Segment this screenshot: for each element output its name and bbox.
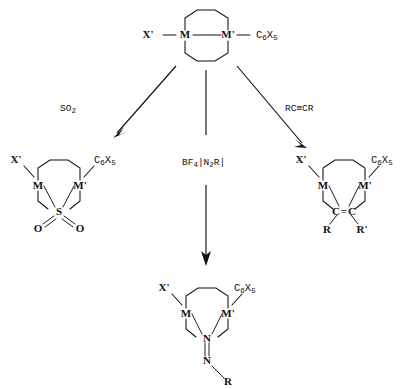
diazo-product-left-ligand-bond — [172, 294, 182, 305]
reactant-structure: X' M M' C6X5 — [143, 10, 279, 61]
reaction-scheme: X' M M' C6X5 SO2 BF4|N2R| RC≡CR — [0, 0, 411, 389]
alkyne-product-left-ligand-bond — [309, 166, 319, 177]
so2-product-right-ligand-bond — [84, 166, 94, 177]
alkyne-product-metal-1-label: M — [318, 179, 329, 191]
so2-product-metal-2-label: M' — [73, 179, 86, 191]
diazo-product-left-ligand-label: X' — [159, 281, 170, 293]
diazo-product-right-ligand-label: C6X5 — [234, 282, 256, 295]
alkyne-product-double-bond-label: = — [341, 205, 347, 217]
so2-product-left-ligand-bond — [24, 166, 34, 177]
reactant-lower-bridge — [185, 41, 228, 61]
alkyne-product-carbon-1-label: C — [332, 205, 340, 217]
diazo-product-bridge-nitrogen-label: N — [203, 332, 211, 344]
reagent-alkyne-label: RC≡CR — [285, 103, 314, 114]
diazo-product-left-leg — [186, 319, 196, 337]
reactant-left-ligand-label: X' — [143, 28, 154, 40]
diazo-product-structure: M M' N N R X' C6X5 — [159, 281, 257, 387]
alkyne-product-substituent-left-label: R — [323, 223, 332, 235]
so2-product-left-leg — [38, 191, 48, 209]
alkyne-product-metal-2-label: M' — [358, 179, 371, 191]
so2-product-oxygen-left-label: O — [34, 222, 43, 234]
so2-product-oxygen-right-label: O — [76, 222, 85, 234]
alkyne-product-upper-bridge — [323, 160, 365, 180]
diazo-product-right-leg — [218, 319, 228, 337]
so2-product-m1-s-bond — [44, 186, 55, 207]
reactant-metal-1-label: M — [180, 28, 191, 40]
so2-product-right-leg — [70, 191, 80, 209]
diazo-product-metal-1-label: M — [181, 307, 192, 319]
alkyne-product-carbon-2-label: C — [348, 205, 356, 217]
so2-product-left-ligand-label: X' — [11, 153, 22, 165]
arrow-to-so2-product — [113, 66, 176, 138]
reactant-metal-2-label: M' — [221, 28, 234, 40]
alkyne-product-structure: M M' C = C R R' X' C6X5 — [296, 153, 394, 235]
diazo-product-imine-substituent-label: R — [224, 375, 233, 387]
so2-product-right-ligand-label: C6X5 — [94, 154, 116, 167]
alkyne-product-right-ligand-bond — [369, 166, 379, 177]
alkyne-product-right-ligand-label: C6X5 — [371, 154, 393, 167]
alkyne-product-substituent-right-label: R' — [357, 223, 368, 235]
diazo-product-imine-nitrogen-label: N — [203, 354, 211, 366]
reactant-right-ligand-label: C6X5 — [256, 29, 278, 42]
alkyne-product-right-leg — [355, 191, 365, 209]
alkyne-product-m1-c-bond — [329, 186, 339, 206]
so2-product-sulfur-label: S — [56, 205, 62, 217]
diazo-product-right-ligand-bond — [232, 294, 242, 305]
reagent-diazonium-label: BF4|N2R| — [182, 157, 225, 169]
reagent-so2-label: SO2 — [60, 103, 76, 115]
so2-product-metal-1-label: M — [33, 179, 44, 191]
diazo-product-m1-n-bond — [192, 314, 202, 334]
so2-product-structure: M M' S O O X' C6X5 — [11, 153, 117, 234]
diazo-product-upper-bridge — [186, 288, 228, 308]
diazo-product-metal-2-label: M' — [221, 307, 234, 319]
alkyne-product-left-ligand-label: X' — [296, 153, 307, 165]
so2-product-upper-bridge — [38, 160, 80, 180]
